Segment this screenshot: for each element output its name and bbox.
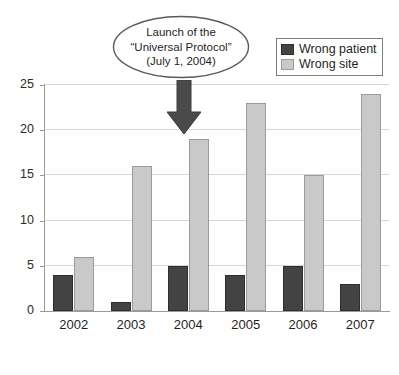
- callout-text: Launch of the “Universal Protocol” (July…: [112, 15, 250, 79]
- callout-down-arrow-icon: [165, 80, 203, 136]
- legend-label-wrong-site: Wrong site: [299, 58, 359, 71]
- plot-area: [45, 85, 389, 311]
- y-axis-tick-label: 10: [0, 214, 34, 227]
- y-axis-tick-label: 5: [0, 259, 34, 272]
- annotation-callout: Launch of the “Universal Protocol” (July…: [112, 15, 250, 79]
- bar: [246, 103, 266, 311]
- y-axis-tick-mark: [40, 266, 45, 267]
- x-axis-tick-label: 2005: [216, 318, 276, 331]
- x-axis-tick-label: 2006: [273, 318, 333, 331]
- bar: [168, 266, 188, 311]
- y-axis-line: [44, 84, 45, 312]
- chart-figure: 0510152025 200220032004200520062007 Wron…: [0, 0, 399, 375]
- x-axis-tick-label: 2004: [158, 318, 218, 331]
- y-axis-tick-label: 20: [0, 123, 34, 136]
- y-axis-tick-mark: [40, 175, 45, 176]
- bar: [53, 275, 73, 311]
- bar: [340, 284, 360, 311]
- y-axis-tick-label: 0: [0, 304, 34, 317]
- bar: [225, 275, 245, 311]
- gridline: [45, 265, 389, 266]
- bar: [304, 175, 324, 311]
- bar: [189, 139, 209, 311]
- gridline: [45, 84, 389, 85]
- bar: [361, 94, 381, 311]
- bar: [132, 166, 152, 311]
- legend-label-wrong-patient: Wrong patient: [299, 43, 377, 56]
- gridline: [45, 174, 389, 175]
- callout-line-1: Launch of the: [146, 25, 216, 39]
- x-axis-tick-label: 2007: [330, 318, 390, 331]
- callout-line-3: (July 1, 2004): [146, 54, 216, 68]
- legend-item-wrong-site: Wrong site: [281, 57, 377, 72]
- legend-swatch-wrong-patient: [281, 44, 294, 55]
- callout-line-2: “Universal Protocol”: [131, 40, 232, 54]
- bar: [74, 257, 94, 311]
- legend-swatch-wrong-site: [281, 59, 294, 70]
- x-axis-line: [45, 311, 390, 312]
- y-axis-tick-mark: [40, 311, 45, 312]
- bar: [111, 302, 131, 311]
- y-axis-tick-mark: [40, 221, 45, 222]
- y-axis-tick-label: 25: [0, 78, 34, 91]
- x-axis-tick-label: 2003: [101, 318, 161, 331]
- y-axis-tick-label: 15: [0, 168, 34, 181]
- gridline: [45, 220, 389, 221]
- x-axis-tick-label: 2002: [44, 318, 104, 331]
- y-axis-tick-mark: [40, 85, 45, 86]
- legend-item-wrong-patient: Wrong patient: [281, 42, 377, 57]
- legend: Wrong patient Wrong site: [276, 38, 383, 76]
- y-axis-tick-mark: [40, 130, 45, 131]
- bar: [283, 266, 303, 311]
- gridline: [45, 129, 389, 130]
